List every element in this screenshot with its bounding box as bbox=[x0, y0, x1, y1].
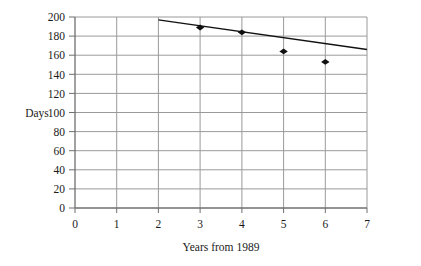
y-tick-label-120: 120 bbox=[48, 88, 66, 100]
y-tick-label-180: 180 bbox=[48, 30, 66, 42]
x-tick-label-1: 1 bbox=[114, 218, 120, 230]
x-tick-label-2: 2 bbox=[156, 218, 162, 230]
y-tick-label-0: 0 bbox=[59, 202, 65, 214]
x-tick-label-5: 5 bbox=[281, 218, 287, 230]
x-axis-title: Years from 1989 bbox=[183, 241, 260, 253]
x-tick-label-6: 6 bbox=[322, 218, 328, 230]
y-tick-label-80: 80 bbox=[54, 126, 66, 138]
y-tick-label-20: 20 bbox=[54, 183, 66, 195]
y-tick-label-60: 60 bbox=[54, 145, 66, 157]
y-tick-label-200: 200 bbox=[48, 11, 66, 23]
y-tick-label-40: 40 bbox=[54, 164, 66, 176]
y-tick-label-140: 140 bbox=[48, 69, 66, 81]
scatter-chart: 200 180 160 140 120 100 80 60 40 20 0 0 … bbox=[0, 0, 421, 266]
y-tick-label-160: 160 bbox=[48, 49, 66, 61]
x-tick-label-3: 3 bbox=[197, 218, 203, 230]
x-tick-label-0: 0 bbox=[72, 218, 78, 230]
y-axis-title: Days bbox=[25, 107, 49, 120]
chart-canvas: 200 180 160 140 120 100 80 60 40 20 0 0 … bbox=[0, 0, 421, 266]
x-tick-label-7: 7 bbox=[364, 218, 370, 230]
y-tick-label-100: 100 bbox=[48, 107, 66, 119]
x-tick-label-4: 4 bbox=[239, 218, 245, 230]
